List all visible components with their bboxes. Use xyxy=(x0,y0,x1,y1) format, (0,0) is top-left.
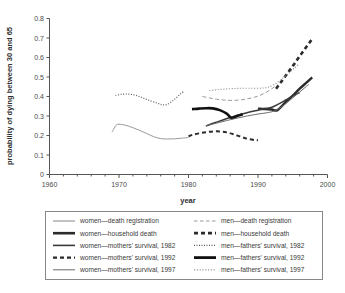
x-axis-title: year xyxy=(180,196,196,205)
x-tick-label: 1970 xyxy=(111,181,127,188)
y-tick-label: 0.8 xyxy=(34,15,44,22)
legend-item-label: men—fathers' survival, 1992 xyxy=(221,254,305,261)
x-tick-label: 1990 xyxy=(250,181,266,188)
probability-of-dying-line-chart: 19601970198019902000 00.10.20.30.40.50.6… xyxy=(0,0,345,293)
legend-item-label: men—household death xyxy=(221,230,290,237)
x-tick-label: 1960 xyxy=(42,181,58,188)
legend-item-label: women—mothers' survival, 1982 xyxy=(79,242,176,249)
legend-item-label: men—fathers' survival, 1997 xyxy=(221,266,305,273)
legend-item-label: women—mothers' survival, 1997 xyxy=(79,266,176,273)
y-tick-label: 0.4 xyxy=(34,93,44,100)
x-tick-label: 2000 xyxy=(320,181,336,188)
y-axis-title: probability of dying between 30 and 65 xyxy=(5,27,14,165)
y-tick-label: 0 xyxy=(40,171,44,178)
y-tick-label: 0.6 xyxy=(34,54,44,61)
y-tick-label: 0.2 xyxy=(34,132,44,139)
legend-item-label: men—fathers' survival, 1982 xyxy=(221,242,305,249)
legend-item-label: women—death registration xyxy=(79,217,159,225)
y-tick-label: 0.3 xyxy=(34,113,44,120)
y-tick-label: 0.1 xyxy=(34,152,44,159)
chart-root: 19601970198019902000 00.10.20.30.40.50.6… xyxy=(0,0,345,293)
legend-item-label: men—death registration xyxy=(221,217,292,225)
y-tick-label: 0.5 xyxy=(34,74,44,81)
x-tick-label: 1980 xyxy=(181,181,197,188)
chart-legend: women—death registrationmen—death regist… xyxy=(46,212,323,280)
y-tick-label: 0.7 xyxy=(34,35,44,42)
legend-item-label: women—mothers' survival, 1992 xyxy=(79,254,176,261)
legend-item-label: women—household death xyxy=(79,230,157,237)
